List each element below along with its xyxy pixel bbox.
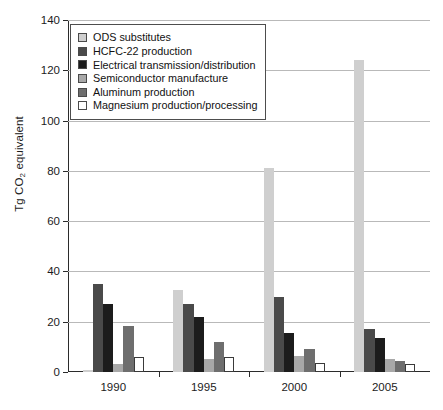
legend-item: Electrical transmission/distribution [78, 58, 257, 72]
legend-item: HCFC-22 production [78, 45, 257, 59]
gridline [68, 121, 430, 122]
legend-label-magnesium-production-processing: Magnesium production/processing [93, 100, 257, 111]
y-tick-mark [63, 20, 68, 21]
y-tick-label: 60 [47, 215, 60, 227]
bar [224, 357, 234, 372]
x-tick-mark [159, 372, 160, 377]
bar [304, 349, 314, 372]
bar [364, 329, 374, 372]
bar [274, 297, 284, 372]
bar [134, 357, 144, 372]
y-tick-label: 100 [41, 115, 60, 127]
legend-item: Magnesium production/processing [78, 99, 257, 113]
x-tick-mark [249, 372, 250, 377]
gridline [68, 20, 430, 21]
bar [315, 363, 325, 372]
gridline [68, 271, 430, 272]
y-tick-mark [63, 70, 68, 71]
legend-label-aluminum-production: Aluminum production [93, 87, 194, 98]
bar [123, 326, 133, 373]
bar [173, 290, 183, 372]
legend-swatch-semiconductor-manufacture [78, 74, 87, 83]
y-tick-mark [63, 121, 68, 122]
legend-label-hcfc-22-production: HCFC-22 production [93, 46, 192, 57]
legend-swatch-magnesium-production-processing [78, 101, 87, 110]
bar [395, 361, 405, 372]
y-tick-mark [63, 271, 68, 272]
x-tick-mark [340, 372, 341, 377]
gridline [68, 171, 430, 172]
y-tick-label: 40 [47, 265, 60, 277]
y-axis-title-post: equivalent [13, 116, 25, 173]
legend-swatch-ods-substitutes [78, 33, 87, 42]
y-tick-label: 20 [47, 316, 60, 328]
legend-label-semiconductor-manufacture: Semiconductor manufacture [93, 73, 228, 84]
y-tick-mark [63, 171, 68, 172]
bar [183, 304, 193, 372]
y-axis-title-pre: Tg CO [13, 177, 25, 211]
legend-label-electrical-transmission-distribution: Electrical transmission/distribution [93, 60, 256, 71]
bar [264, 168, 274, 372]
y-tick-mark [63, 372, 68, 373]
x-tick-label: 1990 [100, 381, 126, 393]
y-axis-title: Tg CO2 equivalent [13, 89, 25, 239]
bar [194, 317, 204, 372]
bar [83, 370, 93, 372]
bar [284, 333, 294, 372]
x-tick-label: 1995 [191, 381, 217, 393]
x-tick-label: 2000 [281, 381, 307, 393]
bar [354, 60, 364, 372]
y-tick-mark [63, 322, 68, 323]
bar [214, 342, 224, 372]
legend-label-ods-substitutes: ODS substitutes [93, 32, 171, 43]
y-axis-title-subscript: 2 [18, 173, 27, 178]
bar [93, 284, 103, 372]
y-tick-label: 120 [41, 64, 60, 76]
legend-item: ODS substitutes [78, 31, 257, 45]
legend-item: Semiconductor manufacture [78, 72, 257, 86]
gridline [68, 221, 430, 222]
bar [294, 356, 304, 372]
y-tick-label: 140 [41, 14, 60, 26]
y-tick-mark [63, 221, 68, 222]
bar [375, 338, 385, 372]
y-tick-label: 80 [47, 165, 60, 177]
legend-swatch-aluminum-production [78, 88, 87, 97]
bar [103, 304, 113, 372]
legend-swatch-electrical-transmission-distribution [78, 60, 87, 69]
legend-swatch-hcfc-22-production [78, 47, 87, 56]
x-tick-label: 2005 [372, 381, 398, 393]
bar [405, 364, 415, 372]
gridline [68, 322, 430, 323]
chart-legend: ODS substitutes HCFC-22 production Elect… [70, 24, 266, 120]
bar [385, 359, 395, 372]
y-tick-label: 0 [54, 366, 60, 378]
bar [204, 359, 214, 372]
bar [113, 364, 123, 372]
legend-item: Aluminum production [78, 85, 257, 99]
bar-chart: Tg CO2 equivalent 020406080100120140 199… [0, 0, 443, 410]
